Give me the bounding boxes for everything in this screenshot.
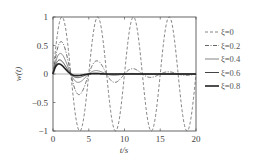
plot-area (53, 17, 196, 131)
x-tick-label: 10 (120, 134, 130, 144)
y-tick-label: 0.5 (37, 41, 49, 51)
x-tick-label: 15 (156, 134, 166, 144)
legend-item-label: ξ=0 (221, 27, 234, 37)
y-tick-label: −0.5 (32, 98, 49, 108)
y-tick-label: 1 (44, 12, 49, 22)
legend: ξ=0ξ=0.2ξ=0.4ξ=0.6ξ=0.8 (205, 27, 241, 91)
chart: 0510152010.50−0.5−1 w(t) t/s ξ=0ξ=0.2ξ=0… (0, 0, 255, 166)
curve-line (53, 42, 196, 95)
curve-line (53, 53, 196, 82)
legend-item-label: ξ=0.6 (221, 68, 240, 78)
legend-item-label: ξ=0.2 (221, 41, 240, 51)
x-tick-label: 5 (87, 134, 92, 144)
y-axis-label: w(t) (13, 67, 23, 82)
legend-item-label: ξ=0.8 (221, 81, 240, 91)
legend-item-label: ξ=0.4 (221, 54, 241, 64)
x-axis-label: t/s (120, 145, 129, 155)
y-tick-label: 0 (44, 69, 49, 79)
y-tick-label: −1 (38, 126, 48, 136)
x-tick-label: 20 (192, 134, 202, 144)
tick-labels: 0510152010.50−0.5−1 (32, 12, 201, 144)
x-tick-label: 0 (51, 134, 56, 144)
